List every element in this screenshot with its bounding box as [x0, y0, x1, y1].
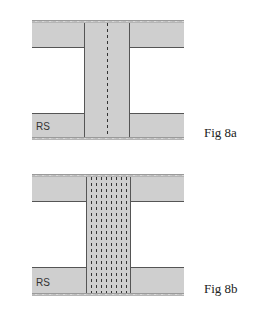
- figure-8b: RS: [32, 174, 184, 296]
- dashed-line: [91, 177, 92, 293]
- dashed-line: [121, 177, 122, 293]
- figure-caption-8a: Fig 8a: [204, 125, 237, 141]
- rs-label: RS: [36, 277, 50, 288]
- figure-8a: RS: [32, 20, 184, 140]
- dashed-line: [116, 177, 117, 293]
- dashed-line: [101, 177, 102, 293]
- rs-label: RS: [36, 121, 50, 132]
- bottom-border-strip: [32, 293, 184, 296]
- figure-caption-8b: Fig 8b: [204, 281, 238, 297]
- bottom-border-strip: [32, 137, 184, 140]
- vertical-pillar: [84, 23, 130, 137]
- vertical-pillar: [86, 177, 131, 293]
- dashed-line: [96, 177, 97, 293]
- dashed-line: [106, 177, 107, 293]
- dashed-line: [126, 177, 127, 293]
- dashed-line: [107, 23, 108, 137]
- dashed-line: [111, 177, 112, 293]
